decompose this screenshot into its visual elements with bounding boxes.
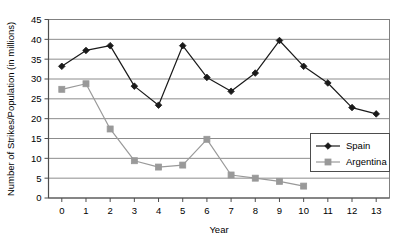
data-point xyxy=(276,178,282,184)
y-tick-label: 40 xyxy=(31,34,42,45)
data-point xyxy=(131,158,137,164)
data-point xyxy=(204,136,210,142)
legend-label-spain: Spain xyxy=(346,140,370,151)
data-point xyxy=(301,183,307,189)
y-tick-label: 5 xyxy=(36,173,41,184)
x-tick-label: 13 xyxy=(371,205,382,216)
data-point xyxy=(228,172,234,178)
y-axis-title: Number of Strikes/Population (in million… xyxy=(5,22,16,196)
chart-container: 051015202530354045 012345678910111213 Nu… xyxy=(0,0,403,242)
x-tick-label: 11 xyxy=(323,205,333,216)
chart-legend: SpainArgentina xyxy=(311,134,390,172)
y-tick-label: 45 xyxy=(31,14,42,25)
y-tick-label: 25 xyxy=(31,93,42,104)
x-tick-label: 6 xyxy=(204,205,209,216)
line-chart: 051015202530354045 012345678910111213 Nu… xyxy=(0,0,403,242)
y-tick-label: 0 xyxy=(36,192,41,203)
data-point xyxy=(252,175,258,181)
y-tick-label: 30 xyxy=(31,73,42,84)
y-tick-label: 20 xyxy=(31,113,42,124)
legend-label-argentina: Argentina xyxy=(346,156,387,167)
x-tick-label: 7 xyxy=(228,205,233,216)
x-tick-label: 4 xyxy=(156,205,161,216)
x-tick-label: 1 xyxy=(83,205,88,216)
x-tick-label: 8 xyxy=(253,205,258,216)
x-tick-label: 10 xyxy=(298,205,309,216)
data-point xyxy=(156,164,162,170)
x-tick-label: 0 xyxy=(59,205,64,216)
y-tick-label: 10 xyxy=(31,153,42,164)
x-tick-label: 9 xyxy=(277,205,282,216)
data-point xyxy=(59,86,65,92)
y-tick-label: 35 xyxy=(31,54,42,65)
x-tick-label: 3 xyxy=(132,205,137,216)
x-tick-label: 2 xyxy=(108,205,113,216)
data-point xyxy=(180,162,186,168)
data-point xyxy=(107,126,113,132)
y-tick-label: 15 xyxy=(31,133,42,144)
x-tick-label: 12 xyxy=(347,205,358,216)
x-tick-label: 5 xyxy=(180,205,185,216)
legend-marker-argentina xyxy=(325,159,331,165)
data-point xyxy=(83,81,89,87)
x-axis-title: Year xyxy=(209,224,228,235)
